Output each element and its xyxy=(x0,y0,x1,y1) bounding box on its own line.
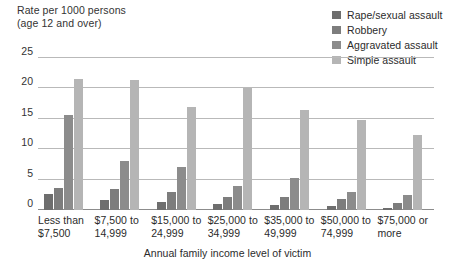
bar xyxy=(223,197,232,210)
x-tick-label: $50,000 to 74,999 xyxy=(321,214,378,239)
bar xyxy=(157,202,166,210)
bar-group-bars xyxy=(100,58,139,210)
bar xyxy=(110,189,119,210)
legend-item-label: Robbery xyxy=(347,24,387,36)
y-tick-label: 25 xyxy=(21,46,33,56)
legend-swatch-icon xyxy=(332,11,341,19)
x-tick-label: $75,000 or more xyxy=(377,214,434,239)
bar xyxy=(393,203,402,210)
legend-item: Aggravated assault xyxy=(332,38,452,52)
bar-group xyxy=(264,58,321,210)
legend-swatch-icon xyxy=(332,26,341,34)
y-tick-label: 10 xyxy=(21,137,33,147)
y-tick-label: 0 xyxy=(27,198,33,208)
bar-group xyxy=(38,58,95,210)
y-axis-title: Rate per 1000 persons (age 12 and over) xyxy=(17,4,126,30)
legend-item: Rape/sexual assault xyxy=(332,8,452,22)
x-tick-label: $15,000 to 24,999 xyxy=(151,214,208,239)
x-tick-label: $35,000 to 49,999 xyxy=(264,214,321,239)
bar xyxy=(403,195,412,210)
bar xyxy=(44,194,53,210)
bar xyxy=(300,110,309,210)
x-tick-label: $25,000 to 34,999 xyxy=(208,214,265,239)
bar xyxy=(280,197,289,210)
legend-item-label: Rape/sexual assault xyxy=(347,9,443,21)
plot-area: 0510152025 xyxy=(38,58,434,210)
bar xyxy=(213,204,222,210)
bar xyxy=(383,208,392,210)
bar xyxy=(54,188,63,210)
y-tick-label: 15 xyxy=(21,107,33,117)
bar xyxy=(270,205,279,210)
bar-group-bars xyxy=(270,58,309,210)
bar-group xyxy=(208,58,265,210)
bar-group xyxy=(95,58,152,210)
bar-group-bars xyxy=(157,58,196,210)
bar xyxy=(357,120,366,210)
bar xyxy=(120,161,129,210)
legend-swatch-icon xyxy=(332,41,341,49)
legend-item-label: Aggravated assault xyxy=(347,39,438,51)
bar-group xyxy=(151,58,208,210)
bar xyxy=(130,80,139,210)
bar xyxy=(327,206,336,210)
x-axis-title: Annual family income level of victim xyxy=(0,247,455,259)
bar xyxy=(290,178,299,210)
bar xyxy=(64,115,73,210)
y-tick-label: 20 xyxy=(21,76,33,86)
bar xyxy=(337,199,346,210)
bar-group xyxy=(377,58,434,210)
bar-group-bars xyxy=(383,58,422,210)
bar xyxy=(187,107,196,210)
bar xyxy=(347,192,356,210)
y-tick-label: 5 xyxy=(27,168,33,178)
bar xyxy=(177,167,186,210)
bar-group-bars xyxy=(213,58,252,210)
bar xyxy=(413,135,422,210)
legend-item: Robbery xyxy=(332,23,452,37)
bar xyxy=(74,79,83,210)
bar-group-bars xyxy=(327,58,366,210)
x-tick-label: $7,500 to 14,999 xyxy=(95,214,152,239)
x-axis-labels: Less than $7,500$7,500 to 14,999$15,000 … xyxy=(38,214,438,244)
bar xyxy=(233,186,242,210)
bar xyxy=(243,88,252,210)
bar xyxy=(100,200,109,210)
bar-group xyxy=(321,58,378,210)
x-tick-label: Less than $7,500 xyxy=(38,214,95,239)
bar-chart: Rate per 1000 persons (age 12 and over) … xyxy=(0,0,455,264)
bar-group-bars xyxy=(44,58,83,210)
bar xyxy=(167,192,176,210)
